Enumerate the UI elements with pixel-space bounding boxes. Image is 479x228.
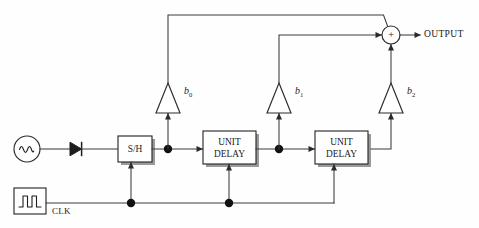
wire-delay2-to-b2: [371, 113, 391, 149]
diode-icon: [70, 142, 82, 156]
node-clk-sh: [127, 199, 135, 207]
amplifier-b0: [156, 83, 180, 113]
sine-source-icon: [14, 136, 40, 162]
amplifier-b2-label: b2: [407, 85, 415, 97]
arrow-into-b0: [165, 113, 171, 120]
output-label: OUTPUT: [424, 28, 464, 39]
arrow-b1-into-sum: [376, 32, 383, 38]
unit-delay-1-label-line2: DELAY: [214, 149, 245, 159]
summing-junction: +: [382, 26, 400, 44]
arrow-into-b2: [388, 113, 394, 120]
unit-delay-2-label-line2: DELAY: [326, 149, 357, 159]
fir-filter-diagram: S/H UNIT DELAY UNIT DELAY: [0, 0, 479, 228]
sample-hold-block: S/H: [118, 136, 155, 165]
amplifier-b1: [267, 83, 291, 113]
unit-delay-1-block: UNIT DELAY: [203, 131, 259, 167]
sample-hold-label: S/H: [128, 144, 143, 154]
clock-label: CLK: [52, 206, 71, 216]
arrow-into-delay2: [309, 146, 316, 152]
amplifier-b0-label: b0: [184, 85, 193, 97]
arrow-into-delay1: [197, 146, 204, 152]
arrow-into-b1: [276, 113, 282, 120]
unit-delay-2-label-line1: UNIT: [330, 137, 353, 147]
node-clk-delay1: [225, 199, 233, 207]
schematic-canvas: S/H UNIT DELAY UNIT DELAY: [0, 0, 479, 228]
clock-source-icon: [14, 188, 46, 214]
arrow-b2-into-sum: [388, 44, 394, 51]
amplifier-b1-label: b1: [295, 85, 303, 97]
unit-delay-1-label-line1: UNIT: [218, 137, 241, 147]
wire-b1-to-sum: [279, 35, 382, 83]
summing-junction-plus-symbol: +: [388, 29, 394, 40]
arrow-output: [415, 32, 422, 38]
amplifier-b2: [379, 83, 403, 113]
unit-delay-2-block: UNIT DELAY: [315, 131, 371, 167]
